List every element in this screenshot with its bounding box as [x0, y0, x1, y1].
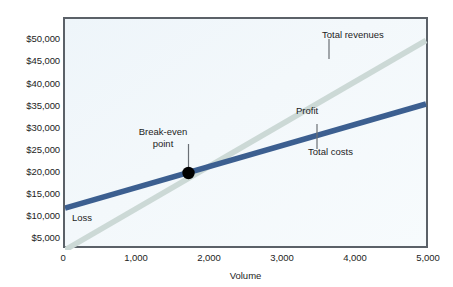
x-axis-title: Volume — [63, 270, 428, 281]
x-tick-3000: 3,000 — [270, 252, 293, 263]
y-tick-35000: $35,000 — [2, 100, 60, 111]
break-even-label-line1: Break-even — [129, 126, 197, 138]
x-tick-1000: 1,000 — [124, 252, 147, 263]
y-axis-tick-labels: $50,000 $45,000 $40,000 $35,000 $30,000 … — [0, 0, 60, 287]
total-revenues-line — [65, 41, 426, 251]
plot-svg — [65, 19, 430, 250]
y-tick-45000: $45,000 — [2, 55, 60, 66]
y-tick-15000: $15,000 — [2, 188, 60, 199]
y-tick-20000: $20,000 — [2, 166, 60, 177]
break-even-chart: $50,000 $45,000 $40,000 $35,000 $30,000 … — [0, 0, 453, 287]
annotation-loss: Loss — [72, 212, 92, 224]
annotation-profit: Profit — [296, 105, 318, 117]
y-tick-5000: $5,000 — [2, 232, 60, 243]
x-tick-0: 0 — [60, 252, 65, 263]
x-tick-5000: 5,000 — [416, 252, 439, 263]
plot-area — [63, 17, 428, 248]
total-costs-line — [65, 104, 426, 208]
annotation-total-revenues: Total revenues — [322, 29, 384, 41]
y-tick-25000: $25,000 — [2, 144, 60, 155]
x-tick-2000: 2,000 — [197, 252, 220, 263]
y-tick-40000: $40,000 — [2, 78, 60, 89]
annotation-total-costs: Total costs — [308, 146, 353, 158]
x-tick-4000: 4,000 — [343, 252, 366, 263]
break-even-point-marker — [182, 167, 194, 179]
y-tick-50000: $50,000 — [2, 33, 60, 44]
break-even-label-line2: point — [129, 138, 197, 150]
y-tick-10000: $10,000 — [2, 210, 60, 221]
y-tick-30000: $30,000 — [2, 122, 60, 133]
annotation-break-even-point: Break-even point — [129, 126, 197, 149]
